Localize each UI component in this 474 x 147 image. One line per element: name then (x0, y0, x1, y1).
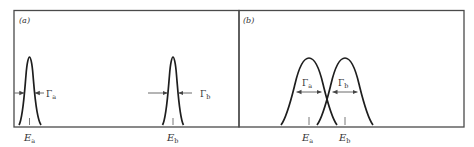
panel-b-energy-a: Ea (301, 132, 313, 145)
panel-a-energy-a: Ea (23, 132, 35, 145)
panel-a-energy-b: Eb (166, 132, 178, 145)
panel-b-gamma-a: Γa (302, 78, 312, 90)
panel-a-label: (a) (19, 16, 30, 25)
resonance-width-diagram: (a) Γa Ea Γb Eb (b) Γa Ea Γb Eb (0, 0, 474, 147)
panel-a-peak-a-curve (19, 57, 41, 125)
panel-a-gamma-a: Γa (46, 89, 56, 101)
panel-b: (b) Γa Ea Γb Eb (239, 11, 464, 146)
panel-a-peak-b-curve (163, 57, 184, 125)
panel-b-label: (b) (243, 16, 254, 25)
panel-a-gamma-b: Γb (200, 89, 210, 101)
panel-b-frame (239, 11, 464, 128)
panel-a: (a) Γa Ea Γb Eb (14, 11, 239, 146)
panel-b-energy-b: Eb (338, 132, 350, 145)
panel-a-frame (14, 11, 239, 128)
panel-b-gamma-b: Γb (338, 78, 348, 90)
